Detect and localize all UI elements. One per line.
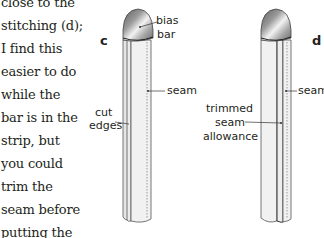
fabric-strip-c bbox=[123, 40, 151, 222]
fabric-strip-d bbox=[261, 40, 291, 222]
label-edges: edges bbox=[89, 119, 122, 132]
label-bias: bias bbox=[156, 14, 179, 27]
bias-bar-c bbox=[123, 9, 153, 41]
label-seam-c: seam bbox=[167, 84, 197, 97]
label-trimmed: trimmed bbox=[206, 102, 253, 115]
label-allowance: allowance bbox=[203, 130, 258, 143]
figure-d-illustration bbox=[245, 9, 297, 222]
label-seam-d: seam bbox=[298, 84, 324, 97]
figure-c-letter: c bbox=[100, 33, 108, 48]
label-cut: cut bbox=[95, 106, 112, 119]
figure-d-letter: d bbox=[312, 33, 321, 48]
bias-bar-d bbox=[261, 9, 291, 41]
label-seam-allowance-1: seam bbox=[215, 116, 245, 129]
label-bar: bar bbox=[157, 28, 175, 41]
